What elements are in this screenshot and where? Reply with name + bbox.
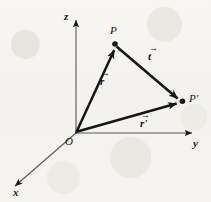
vector-group [76, 47, 178, 134]
vector-arrow-accent-t: → [149, 46, 157, 51]
vector-diagram-figure: z y x O P P' → r → t → r' [0, 0, 211, 202]
point-dot-P [112, 41, 118, 47]
point-dot-P-prime [180, 98, 186, 104]
vector-label-t: → t [148, 46, 156, 61]
axis-label-y: y [193, 138, 198, 149]
vector-label-r: → r [100, 71, 108, 86]
point-label-P-prime: P' [189, 93, 198, 104]
vector-r-prime-line [78, 104, 177, 132]
vector-arrow-accent-r-prime: → [141, 113, 149, 118]
vector-label-r-prime: → r' [140, 113, 148, 128]
vector-r-line [76, 50, 114, 133]
origin-label-O: O [65, 136, 73, 147]
vector-arrow-accent-r: → [101, 71, 109, 76]
axis-group [15, 20, 192, 186]
point-label-P: P [110, 25, 117, 36]
vector-diagram-canvas [0, 0, 211, 202]
point-label-P-prime-mark: ' [196, 92, 198, 104]
point-label-P-prime-glyph: P [189, 92, 196, 104]
axis-label-z: z [64, 11, 68, 22]
axis-label-x: x [13, 187, 19, 198]
